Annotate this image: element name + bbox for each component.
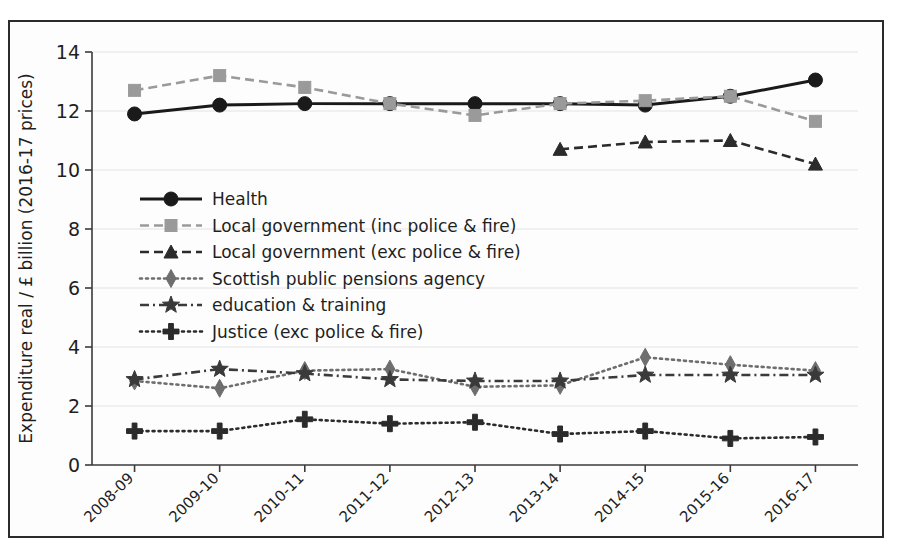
x-tick-label-3: 2011-12 (336, 469, 393, 526)
chart-frame: Expenditure real / £ billion (2016-17 pr… (8, 20, 884, 538)
x-tick-label-6: 2014-15 (591, 469, 648, 526)
series-line-2 (560, 141, 815, 165)
x-tick-label-2: 2010-11 (251, 469, 308, 526)
chart-legend: HealthLocal government (inc police & fir… (140, 189, 521, 342)
legend-label-4: education & training (212, 295, 386, 315)
x-tick-label-5: 2013-14 (506, 469, 563, 526)
legend-item-4[interactable]: education & training (140, 295, 386, 315)
legend-item-3[interactable]: Scottish public pensions agency (140, 269, 485, 289)
y-tick-label-4: 4 (68, 336, 80, 358)
legend-label-1: Local government (inc police & fire) (212, 216, 516, 236)
legend-item-1[interactable]: Local government (inc police & fire) (140, 216, 516, 236)
y-tick-label-10: 10 (56, 159, 80, 181)
y-axis-title: Expenditure real / £ billion (2016-17 pr… (16, 73, 36, 443)
x-tick-label-1: 2009-10 (165, 469, 222, 526)
legend-label-5: Justice (exc police & fire) (211, 322, 423, 342)
legend-item-2[interactable]: Local government (exc police & fire) (140, 242, 521, 262)
x-tick-label-4: 2012-13 (421, 469, 478, 526)
series-2 (553, 134, 822, 171)
chart-figure: Expenditure real / £ billion (2016-17 pr… (0, 0, 897, 556)
y-tick-label-6: 6 (68, 277, 80, 299)
y-tick-label-14: 14 (56, 41, 80, 63)
legend-label-0: Health (212, 189, 268, 209)
legend-label-2: Local government (exc police & fire) (212, 242, 521, 262)
legend-item-5[interactable]: Justice (exc police & fire) (140, 322, 423, 342)
series-5 (127, 411, 824, 446)
y-tick-label-12: 12 (56, 100, 80, 122)
x-tick-label-0: 2008-09 (80, 469, 137, 526)
legend-label-3: Scottish public pensions agency (212, 269, 485, 289)
y-tick-label-2: 2 (68, 395, 80, 417)
x-tick-label-8: 2016-17 (761, 469, 818, 526)
y-tick-label-8: 8 (68, 218, 80, 240)
x-tick-label-7: 2015-16 (676, 469, 733, 526)
expenditure-line-chart: Expenditure real / £ billion (2016-17 pr… (10, 22, 882, 536)
legend-item-0[interactable]: Health (140, 189, 268, 209)
y-tick-label-0: 0 (68, 454, 80, 476)
